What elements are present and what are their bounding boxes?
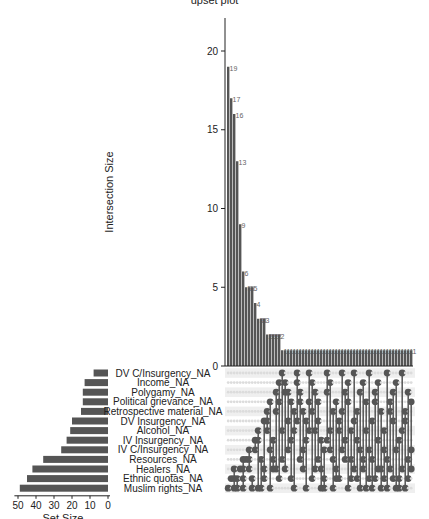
matrix-dot-empty xyxy=(320,381,323,384)
bar-value-label: 1 xyxy=(413,348,417,355)
matrix-dot-empty xyxy=(242,391,245,394)
matrix-dot-empty xyxy=(398,410,401,413)
matrix-dot-empty xyxy=(380,372,383,375)
matrix-dot-empty xyxy=(290,391,293,394)
matrix-dot-empty xyxy=(326,468,329,471)
matrix-dot-empty xyxy=(410,391,413,394)
matrix-dot-empty xyxy=(341,477,344,480)
matrix-dot-empty xyxy=(317,372,320,375)
set-size-tick-label: 10 xyxy=(84,500,96,511)
matrix-dot-empty xyxy=(296,429,299,432)
matrix-dot-empty xyxy=(407,487,410,490)
matrix-dot-empty xyxy=(263,487,266,490)
matrix-dot-empty xyxy=(359,372,362,375)
intersection-bar xyxy=(236,161,238,366)
matrix-dot-empty xyxy=(254,468,257,471)
matrix-dot-empty xyxy=(410,487,413,490)
matrix-dot-empty xyxy=(377,477,380,480)
matrix-dot-empty xyxy=(308,448,311,451)
set-size-bar xyxy=(94,370,108,377)
matrix-dot-empty xyxy=(377,372,380,375)
matrix-dot-empty xyxy=(266,458,269,461)
matrix-dot-empty xyxy=(335,381,338,384)
matrix-dot-empty xyxy=(329,372,332,375)
matrix-dot-empty xyxy=(281,487,284,490)
matrix-dot-empty xyxy=(374,372,377,375)
matrix-dot-empty xyxy=(245,487,248,490)
matrix-dot-empty xyxy=(320,420,323,423)
set-size-bar xyxy=(27,475,108,482)
matrix-dot-empty xyxy=(338,400,341,403)
matrix-dot-empty xyxy=(230,458,233,461)
matrix-dot-empty xyxy=(242,372,245,375)
matrix-dot-empty xyxy=(287,487,290,490)
matrix-dot-empty xyxy=(290,372,293,375)
matrix-dot-empty xyxy=(293,400,296,403)
y-tick-label: 5 xyxy=(212,282,218,293)
matrix-dot-empty xyxy=(257,381,260,384)
matrix-dot-empty xyxy=(257,372,260,375)
set-size-tick-label: 50 xyxy=(12,500,24,511)
upset-chart: 05101520Intersection Size191716139655543… xyxy=(0,0,429,519)
matrix-dot-empty xyxy=(308,468,311,471)
matrix-dot-empty xyxy=(287,372,290,375)
matrix-dot-empty xyxy=(284,372,287,375)
matrix-dot-empty xyxy=(335,372,338,375)
matrix-dot-empty xyxy=(398,391,401,394)
matrix-dot-empty xyxy=(383,420,386,423)
matrix-dot-empty xyxy=(257,391,260,394)
matrix-dot-empty xyxy=(350,381,353,384)
matrix-dot-empty xyxy=(251,420,254,423)
matrix-dot-empty xyxy=(269,381,272,384)
matrix-dot-empty xyxy=(239,400,242,403)
matrix-dot-empty xyxy=(233,458,236,461)
matrix-dot-empty xyxy=(344,468,347,471)
bar-value-label: 6 xyxy=(245,270,249,277)
matrix-dot-empty xyxy=(320,410,323,413)
matrix-dot-empty xyxy=(233,381,236,384)
matrix-dot-empty xyxy=(326,477,329,480)
bar-value-label: 3 xyxy=(266,317,270,324)
matrix-dot-empty xyxy=(242,400,245,403)
matrix-dot-empty xyxy=(389,372,392,375)
matrix-dot-empty xyxy=(266,439,269,442)
intersection-bar xyxy=(251,287,253,366)
set-size-bar xyxy=(67,437,108,444)
matrix-dot-empty xyxy=(233,420,236,423)
matrix-dot-empty xyxy=(332,372,335,375)
matrix-dot-empty xyxy=(365,381,368,384)
matrix-dot-empty xyxy=(254,400,257,403)
matrix-dot-empty xyxy=(245,477,248,480)
matrix-dot-empty xyxy=(326,487,329,490)
matrix-dot-empty xyxy=(323,410,326,413)
matrix-dot-empty xyxy=(236,420,239,423)
matrix-dot-empty xyxy=(302,477,305,480)
matrix-dot-empty xyxy=(254,420,257,423)
matrix-dot-empty xyxy=(251,410,254,413)
matrix-dot-empty xyxy=(269,372,272,375)
set-size-tick-label: 40 xyxy=(30,500,42,511)
matrix-dot-empty xyxy=(257,400,260,403)
matrix-dot-empty xyxy=(341,468,344,471)
set-size-bar xyxy=(20,485,108,492)
matrix-dot-empty xyxy=(239,420,242,423)
matrix-dot-empty xyxy=(248,372,251,375)
matrix-dot-empty xyxy=(260,439,263,442)
bar-value-label: 5 xyxy=(254,285,258,292)
matrix-dot-empty xyxy=(269,391,272,394)
matrix-dot-empty xyxy=(329,477,332,480)
matrix-dot-empty xyxy=(305,381,308,384)
matrix-dot-empty xyxy=(248,391,251,394)
matrix-dot-empty xyxy=(239,410,242,413)
matrix-dot-empty xyxy=(383,391,386,394)
bar-value-label: 4 xyxy=(257,301,261,308)
matrix-dot-empty xyxy=(272,429,275,432)
matrix-dot-empty xyxy=(263,381,266,384)
matrix-dot-empty xyxy=(239,439,242,442)
matrix-dot-empty xyxy=(320,372,323,375)
matrix-dot-empty xyxy=(278,487,281,490)
matrix-dot-empty xyxy=(242,448,245,451)
matrix-dot-empty xyxy=(227,391,230,394)
matrix-dot-empty xyxy=(389,487,392,490)
matrix-dot-empty xyxy=(254,458,257,461)
